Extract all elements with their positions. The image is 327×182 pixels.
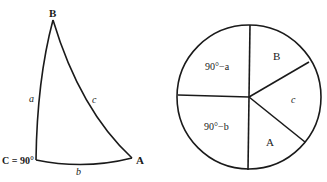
diagram-canvas: B C = 90° A a c b 90°−a 90°−b B c A: [0, 0, 327, 182]
part-90-minus-b: 90°−b: [204, 121, 229, 132]
divider-left: [178, 95, 249, 97]
spherical-triangle: [36, 20, 132, 165]
divider-upper-right: [249, 62, 309, 97]
part-b: B: [273, 50, 280, 62]
vertex-c-label: C = 90°: [2, 155, 34, 166]
divider-bottom: [248, 97, 249, 170]
side-b-label: b: [76, 166, 81, 177]
side-c-arc: [53, 20, 132, 158]
part-90-minus-a: 90°−a: [205, 61, 230, 72]
side-c-label: c: [92, 94, 97, 105]
divider-top: [249, 25, 250, 97]
side-b-arc: [36, 158, 132, 165]
side-a-label: a: [29, 93, 34, 104]
divider-lower-right: [249, 97, 305, 142]
napier-circle: [177, 25, 321, 170]
vertex-b-label: B: [49, 7, 57, 19]
part-a: A: [266, 136, 274, 148]
part-c: c: [291, 94, 296, 105]
vertex-a-label: A: [136, 154, 144, 166]
side-a-arc: [36, 20, 53, 160]
